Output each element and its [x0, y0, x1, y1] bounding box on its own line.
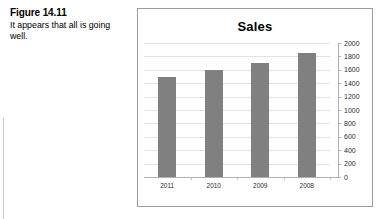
x-axis-tick-label: 2010 — [191, 182, 238, 189]
y-axis-tick — [338, 177, 341, 178]
figure-caption-text: It appears that all is going well. — [10, 20, 126, 42]
y-axis-tick — [338, 123, 341, 124]
chart-title: Sales — [138, 19, 372, 34]
y-axis-tick-label: 1800 — [344, 53, 360, 60]
y-axis-tick — [338, 110, 341, 111]
bar-series — [144, 43, 330, 177]
x-axis-tick-label: 2011 — [144, 182, 191, 189]
y-axis-tick-label: 2000 — [344, 40, 360, 47]
bar[interactable] — [205, 70, 223, 177]
y-axis-tick — [338, 83, 341, 84]
x-axis-tick — [191, 177, 192, 180]
figure-page: Figure 14.11 It appears that all is goin… — [0, 0, 385, 219]
y-axis-tick-label: 200 — [344, 160, 356, 167]
x-axis-tick — [237, 177, 238, 180]
x-axis-tick-label: 2009 — [237, 182, 284, 189]
y-axis-tick — [338, 43, 341, 44]
x-axis-labels: 2011201020092008 — [144, 182, 330, 189]
y-axis-tick — [338, 56, 341, 57]
y-axis-tick-label: 1000 — [344, 107, 360, 114]
bar[interactable] — [158, 77, 176, 178]
x-axis-line — [144, 177, 338, 178]
y-axis-tick-label: 600 — [344, 133, 356, 140]
bar-slot — [191, 43, 238, 177]
bar-slot — [144, 43, 191, 177]
plot-area: 2000180016001400120010008006004002000 20… — [144, 43, 366, 198]
bar-slot — [284, 43, 331, 177]
y-axis-tick-label: 0 — [344, 174, 348, 181]
bar-slot — [237, 43, 284, 177]
margin-rule — [3, 118, 4, 219]
y-axis-tick — [338, 164, 341, 165]
plot-grid — [144, 43, 330, 177]
x-axis-tick — [330, 177, 331, 180]
y-axis-tick-label: 400 — [344, 147, 356, 154]
y-axis-tick-label: 1600 — [344, 66, 360, 73]
bar[interactable] — [251, 63, 269, 177]
y-axis-tick-label: 1200 — [344, 93, 360, 100]
figure-label: Figure 14.11 — [10, 7, 126, 19]
x-axis-tick-label: 2008 — [284, 182, 331, 189]
y-axis-tick-label: 1400 — [344, 80, 360, 87]
figure-caption-block: Figure 14.11 It appears that all is goin… — [10, 7, 126, 42]
x-axis-tick — [284, 177, 285, 180]
y-axis-tick — [338, 137, 341, 138]
y-axis: 2000180016001400120010008006004002000 — [330, 43, 366, 177]
y-axis-tick — [338, 70, 341, 71]
chart-frame: Sales 2000180016001400120010008006004002… — [137, 8, 373, 207]
y-axis-tick — [338, 150, 341, 151]
y-axis-tick-label: 800 — [344, 120, 356, 127]
y-axis-tick — [338, 97, 341, 98]
bar[interactable] — [298, 53, 316, 177]
